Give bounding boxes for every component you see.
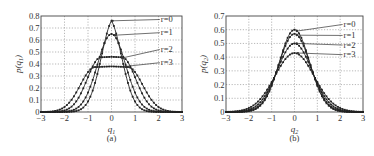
data-marker xyxy=(253,107,255,109)
data-marker xyxy=(339,107,341,109)
data-marker xyxy=(148,95,150,97)
data-marker xyxy=(262,95,264,97)
data-marker xyxy=(169,110,171,112)
data-marker xyxy=(294,33,296,35)
data-marker xyxy=(106,66,108,68)
data-marker xyxy=(97,66,99,68)
data-marker xyxy=(108,25,110,27)
data-marker xyxy=(139,101,141,103)
data-marker xyxy=(89,71,91,73)
annotation-arrowhead-icon xyxy=(114,34,116,36)
data-marker xyxy=(99,63,101,65)
data-marker xyxy=(146,100,148,102)
y-tick-label: 0.3 xyxy=(29,71,40,81)
data-marker xyxy=(120,66,122,68)
y-tick-label: 0.1 xyxy=(29,95,40,105)
data-marker xyxy=(127,82,129,84)
data-marker xyxy=(291,53,293,55)
y-tick-label: 0.8 xyxy=(29,11,40,21)
data-marker xyxy=(264,92,266,94)
data-marker xyxy=(305,51,307,53)
data-marker xyxy=(132,68,134,70)
annotation-leader-line xyxy=(115,33,160,36)
data-marker xyxy=(75,100,77,102)
data-marker xyxy=(348,110,350,112)
data-marker xyxy=(122,63,124,65)
data-marker xyxy=(139,87,141,89)
data-marker xyxy=(230,111,232,113)
data-marker xyxy=(307,61,309,63)
data-marker xyxy=(57,109,59,111)
data-marker xyxy=(144,109,146,111)
data-marker xyxy=(104,66,106,68)
data-marker xyxy=(136,82,138,84)
data-marker xyxy=(118,42,120,44)
data-marker xyxy=(148,111,150,113)
data-marker xyxy=(248,109,250,111)
data-marker xyxy=(176,111,178,113)
data-marker xyxy=(106,56,108,58)
data-marker xyxy=(165,109,167,111)
data-marker xyxy=(125,58,127,60)
y-tick-label: 0.3 xyxy=(214,66,225,76)
data-marker xyxy=(97,58,99,60)
data-marker xyxy=(118,56,120,58)
data-marker xyxy=(282,61,284,63)
data-marker xyxy=(289,36,291,38)
data-marker xyxy=(148,103,150,105)
data-marker xyxy=(291,43,293,45)
annotation-arrowhead-icon xyxy=(121,57,123,59)
data-marker xyxy=(92,67,94,69)
data-marker xyxy=(346,109,348,111)
data-marker xyxy=(101,66,103,68)
data-marker xyxy=(280,61,282,63)
data-marker xyxy=(239,110,241,112)
data-marker xyxy=(134,101,136,103)
data-marker xyxy=(287,56,289,58)
data-marker xyxy=(259,101,261,103)
data-marker xyxy=(266,91,268,93)
annotation-arrowhead-icon xyxy=(296,42,298,44)
data-marker xyxy=(294,43,296,45)
data-marker xyxy=(289,45,291,47)
data-marker xyxy=(99,66,101,68)
data-marker xyxy=(253,108,255,110)
data-marker xyxy=(291,34,293,36)
data-marker xyxy=(321,89,323,91)
annotation-label: r=2 xyxy=(344,40,356,50)
data-marker xyxy=(89,68,91,70)
data-marker xyxy=(42,111,44,113)
data-marker xyxy=(312,73,314,75)
data-marker xyxy=(298,33,300,35)
data-marker xyxy=(257,101,259,103)
data-marker xyxy=(111,33,113,35)
data-marker xyxy=(314,77,316,79)
annotation-label: r=0 xyxy=(161,14,173,24)
data-marker xyxy=(158,110,160,112)
data-marker xyxy=(291,30,293,32)
data-marker xyxy=(155,104,157,106)
data-marker xyxy=(323,98,325,100)
data-marker xyxy=(335,105,337,107)
data-marker xyxy=(66,111,68,113)
data-marker xyxy=(248,107,250,109)
y-tick-label: 0.5 xyxy=(29,47,40,57)
data-marker xyxy=(45,111,47,113)
data-marker xyxy=(113,25,115,27)
data-marker xyxy=(132,96,134,98)
x-tick-label: −2 xyxy=(244,113,253,123)
data-marker xyxy=(294,52,296,54)
data-marker xyxy=(68,110,70,112)
data-marker xyxy=(326,101,328,103)
data-marker xyxy=(289,33,291,35)
data-marker xyxy=(108,66,110,68)
data-marker xyxy=(264,95,266,97)
data-marker xyxy=(82,79,84,81)
data-marker xyxy=(118,66,120,68)
data-marker xyxy=(246,108,248,110)
data-marker xyxy=(141,108,143,110)
data-marker xyxy=(127,61,129,63)
data-marker xyxy=(136,97,138,99)
data-marker xyxy=(271,81,273,83)
data-marker xyxy=(146,110,148,112)
